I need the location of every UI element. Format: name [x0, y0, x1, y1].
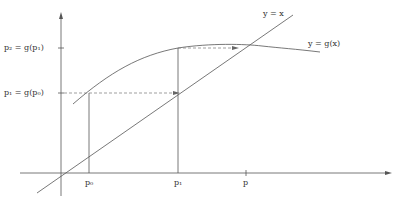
fixed-point-diagram: [0, 0, 394, 202]
identity-line-label: y = x: [263, 10, 284, 18]
identity-line: [37, 15, 293, 193]
dashed-guides: [64, 48, 234, 93]
y-label-p2: p₂ = g(p₁): [4, 44, 44, 52]
y-label-p1: p₁ = g(p₀): [4, 89, 44, 97]
arrow-to-p2-icon: [232, 46, 239, 50]
x-label-p0: p₀: [85, 179, 93, 187]
vertical-guides: [89, 48, 178, 173]
g-curve-label: y = g(x): [308, 40, 340, 48]
x-label-p: p: [243, 179, 248, 187]
y-axis-arrow-icon: [59, 12, 63, 19]
x-label-p1: p₁: [174, 179, 182, 187]
g-curve: [73, 44, 320, 104]
x-axis-arrow-icon: [385, 171, 392, 175]
